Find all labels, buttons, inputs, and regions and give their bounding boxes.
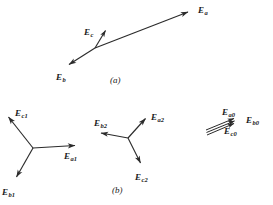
vector-label-Ea1-sub: a1 (70, 155, 77, 162)
vector-label-Ea2-sub: a2 (157, 116, 164, 123)
vector-label-Eb0: Eb0 (246, 116, 259, 125)
vector-Ea1 (33, 146, 75, 149)
vector-label-Ea-sub: a (204, 9, 207, 16)
vector-label-Ec: Ec (84, 28, 93, 37)
vector-label-Ec0: Ec0 (224, 127, 237, 136)
vector-label-Eb: Eb (56, 73, 66, 82)
panel-b-group2-vectors (101, 119, 146, 164)
vector-Eb1 (17, 148, 34, 177)
vector-label-Ec1-sub: c1 (21, 112, 28, 119)
vector-label-Eb-sub: b (62, 76, 65, 83)
vector-label-Eb2: Eb2 (94, 119, 107, 128)
vector-label-Ec-sub: c (90, 31, 93, 38)
vector-label-Ec2: Ec2 (135, 173, 148, 182)
vector-label-Ec0-sub: c0 (230, 130, 237, 137)
vector-Eb (69, 48, 95, 65)
vector-label-Eb0-sub: b0 (252, 119, 259, 126)
vector-label-Ea1: Ea1 (64, 152, 77, 161)
vector-label-Ea0-sub: a0 (228, 111, 235, 118)
vector-Ea2 (128, 119, 146, 139)
panel-a-vectors (69, 12, 188, 65)
vector-diagram-figure: Ea Ec Eb Ec1 Ea1 Eb1 Eb2 Ea2 Ec2 Ea0 Eb0… (0, 0, 273, 205)
vector-label-Ec2-sub: c2 (141, 176, 148, 183)
vector-label-Eb2-sub: b2 (100, 122, 107, 129)
vector-label-Ea0: Ea0 (222, 108, 235, 117)
vector-Ec2 (128, 138, 141, 163)
panel-b-group1-vectors (9, 117, 76, 177)
vector-label-Eb1: Eb1 (2, 188, 15, 197)
vector-label-Eb1-sub: b1 (8, 191, 15, 198)
vector-Ec1 (9, 117, 34, 148)
panel-caption-a: (a) (110, 76, 121, 85)
vector-label-Ea2: Ea2 (151, 113, 164, 122)
vector-label-Ec1: Ec1 (15, 109, 28, 118)
vector-label-Ea: Ea (198, 6, 208, 15)
panel-caption-b: (b) (112, 186, 123, 195)
vector-Ea (95, 12, 188, 48)
vector-Eb2 (101, 133, 128, 138)
